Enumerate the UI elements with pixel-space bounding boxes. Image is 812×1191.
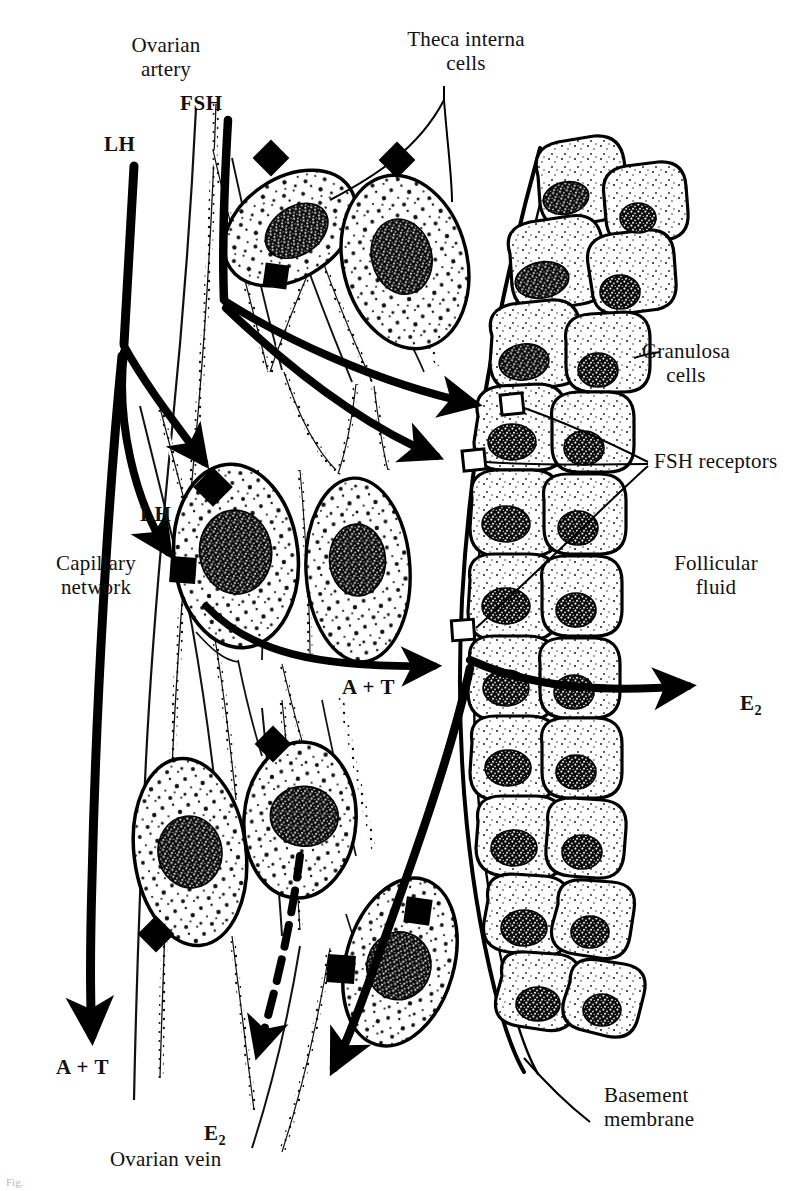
- lh-receptor-marker: [403, 896, 432, 925]
- fsh-receptor-marker: [462, 449, 486, 471]
- label-capillary-network: Capillary network: [16, 552, 176, 600]
- fsh-receptor-marker: [451, 619, 474, 640]
- label-androgens-outflow: A + T: [56, 1056, 109, 1080]
- label-androgens-middle: A + T: [342, 676, 395, 700]
- label-oestradiol-vein: E2: [204, 1098, 226, 1148]
- label-lh-inner: LH: [140, 503, 172, 527]
- label-fsh-receptors: FSH receptors: [654, 450, 777, 474]
- label-fsh-source: FSH: [180, 92, 223, 116]
- fsh-supply-stem: [223, 120, 228, 300]
- lh-receptor-marker: [262, 262, 289, 289]
- fsh-receptor-marker: [500, 393, 524, 415]
- label-oestradiol-follicular-fluid: E2: [740, 668, 762, 718]
- label-lh-source: LH: [104, 133, 136, 157]
- e2-symbol: E: [204, 1121, 219, 1145]
- label-granulosa-cells: Granulosa cells: [606, 340, 766, 388]
- lh-receptor-marker: [326, 954, 356, 984]
- e2-symbol: E: [740, 691, 755, 715]
- label-basement-membrane: Basement membrane: [604, 1084, 784, 1132]
- figure-caption: Fig.: [6, 1176, 426, 1190]
- label-ovarian-vein: Ovarian vein: [110, 1148, 221, 1172]
- e2-subscript: 2: [219, 1132, 227, 1148]
- label-theca-interna-cells: Theca interna cells: [376, 28, 556, 76]
- e2-subscript: 2: [755, 702, 763, 718]
- label-follicular-fluid: Follicular fluid: [636, 552, 796, 600]
- label-ovarian-artery: Ovarian artery: [96, 34, 236, 82]
